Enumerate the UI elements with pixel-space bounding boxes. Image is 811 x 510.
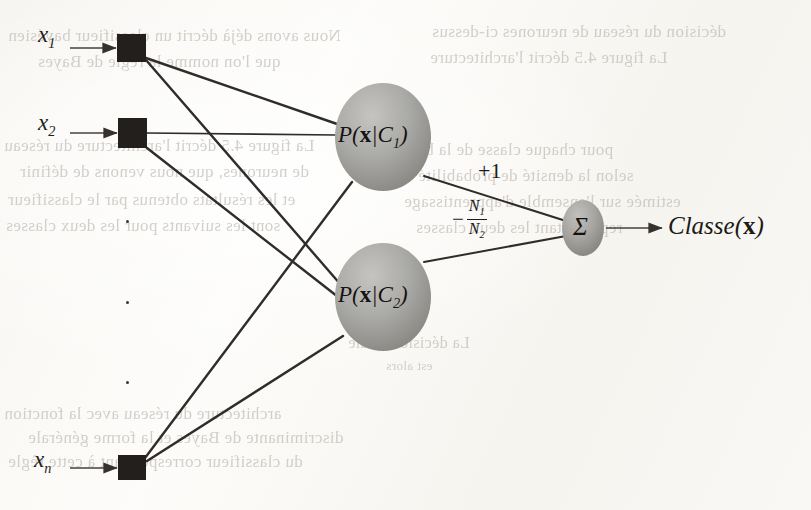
hidden-c2-sub: 2 [393,295,400,311]
edge-c2-to-sigma [424,236,566,262]
network-diagram [0,0,811,510]
input-label-xn: xn [34,447,51,477]
edge-x2-to-c1 [147,133,336,135]
output-label-classe: Classe [668,212,735,239]
hidden-node-label-c2: P(x|C2) [338,282,408,312]
hidden-c1-x: x [360,122,372,147]
input-label-x1-base: x [38,22,48,47]
input-label-xn-sub: n [44,460,51,476]
input-node-x1 [117,34,146,62]
weight-numerator: N1 [467,198,487,218]
hidden-c1-p: P( [338,122,360,147]
summation-glyph: Σ [573,213,588,241]
input-arrows [70,48,117,468]
input-label-xn-base: x [34,447,44,472]
weight-num-base: N [469,197,480,214]
network-edges [145,58,352,461]
weight-minus-sign: − [452,207,464,232]
weight-edges [424,176,566,262]
weight-num-sub: 1 [480,206,485,217]
input-node-xn [118,455,146,480]
input-label-x2-base: x [38,110,48,135]
hidden-c2-x: x [360,282,372,307]
output-label-open: ( [735,212,743,239]
edge-xn-to-c1 [145,182,352,458]
output-label-x: x [743,212,756,239]
figure-canvas: Nous avons déjà décrit un classifieur ba… [0,0,811,510]
weight-fraction: N1 N2 [467,198,487,241]
weight-den-sub: 2 [480,229,485,240]
edge-x2-to-c2 [147,148,342,300]
edge-x1-to-c2 [146,60,341,285]
weight-label-positive: +1 [478,158,501,184]
hidden-c2-c: C [378,282,393,307]
hidden-c2-p: P( [338,282,360,307]
input-label-x2: x2 [38,110,55,140]
hidden-c1-c: C [378,122,393,147]
input-label-x2-sub: 2 [48,123,55,139]
weight-label-negative: − N1 N2 [452,198,487,241]
input-node-x2 [118,118,147,148]
input-label-x1: x1 [38,22,55,52]
weight-denominator: N2 [467,221,487,241]
edge-x1-to-c1 [146,58,340,125]
edge-xn-to-c2 [147,336,343,461]
input-nodes [117,34,147,480]
hidden-c1-close: ) [400,122,408,147]
hidden-c1-sub: 1 [393,135,400,151]
weight-den-base: N [469,220,480,237]
hidden-c2-close: ) [400,282,408,307]
output-label-close: ) [756,212,764,239]
output-label: Classe(x) [668,212,764,240]
input-label-x1-sub: 1 [48,35,55,51]
hidden-node-label-c1: P(x|C1) [338,122,408,152]
